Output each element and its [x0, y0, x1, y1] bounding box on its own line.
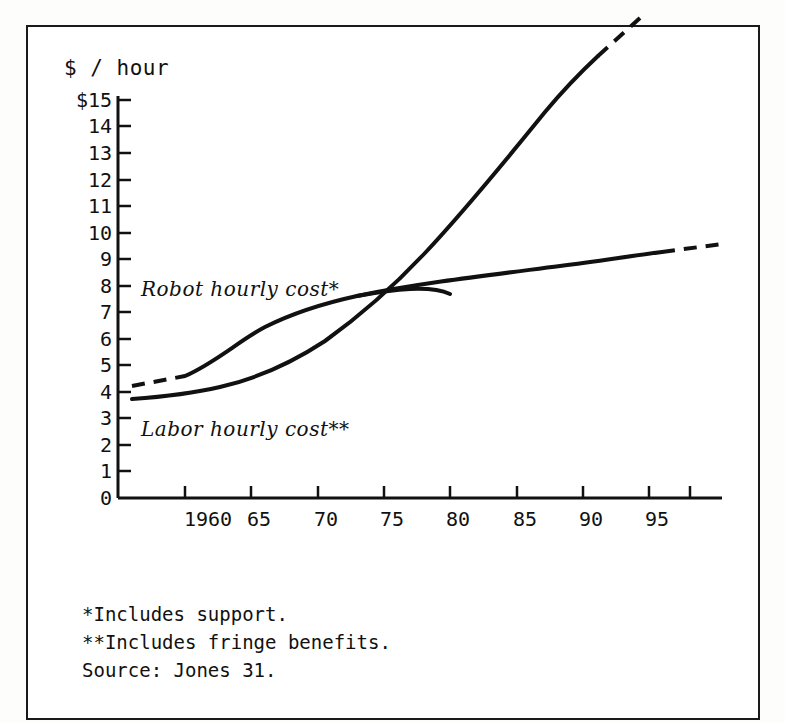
y-tick-label-13: 13 [56, 141, 112, 165]
x-tick-label-75: 75 [380, 507, 404, 531]
x-tick-label-1960: 1960 [184, 507, 232, 531]
y-tick-label-8: 8 [56, 274, 112, 298]
y-tick-label-9: 9 [56, 247, 112, 271]
robot-cost-dashed-end [662, 244, 722, 252]
footnote-fringe-benefits: **Includes fringe benefits. [82, 628, 391, 656]
y-tick-label-11: 11 [56, 194, 112, 218]
series-label-labor: Labor hourly cost** [141, 417, 349, 441]
y-tick-label-7: 7 [56, 300, 112, 324]
x-tick-label-95: 95 [645, 507, 669, 531]
y-tick-label-4: 4 [56, 380, 112, 404]
x-tick-label-80: 80 [446, 507, 470, 531]
y-tick-label-14: 14 [56, 114, 112, 138]
x-tick-label-70: 70 [314, 507, 338, 531]
labor-cost-dashed-end [598, 18, 640, 56]
y-tick-label-5: 5 [56, 353, 112, 377]
x-tick-label-85: 85 [513, 507, 537, 531]
footnotes: *Includes support. **Includes fringe ben… [82, 600, 391, 684]
x-axis-ticks [185, 486, 690, 498]
y-tick-label-10: 10 [56, 221, 112, 245]
y-tick-label-0: 0 [56, 486, 112, 510]
y-tick-label-12: 12 [56, 168, 112, 192]
y-axis-title: $ / hour [64, 56, 169, 80]
y-tick-label-2: 2 [56, 433, 112, 457]
y-tick-label-1: 1 [56, 459, 112, 483]
footnote-support: *Includes support. [82, 600, 391, 628]
series-label-robot: Robot hourly cost* [141, 277, 339, 301]
robot-cost-curve-left [185, 289, 450, 376]
footnote-source: Source: Jones 31. [82, 656, 391, 684]
y-tick-label-6: 6 [56, 327, 112, 351]
labor-cost-curve [132, 56, 598, 399]
x-tick-label-90: 90 [579, 507, 603, 531]
figure-container: $ / hour $15 14 13 12 11 10 9 8 7 6 5 4 … [0, 0, 785, 723]
x-tick-label-65: 65 [247, 507, 271, 531]
y-tick-label-3: 3 [56, 406, 112, 430]
robot-cost-dashed-start [132, 376, 185, 386]
y-axis-ticks [118, 100, 131, 471]
y-tick-label-15: $15 [56, 88, 112, 112]
